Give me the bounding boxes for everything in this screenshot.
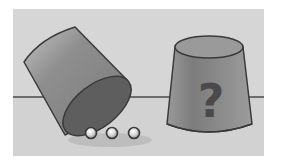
cup-top [175, 36, 243, 58]
cups-illustration: ? [0, 0, 286, 166]
balls [86, 128, 140, 139]
ball [86, 128, 97, 139]
ball [129, 128, 140, 139]
ball [107, 128, 118, 139]
question-mark: ? [198, 74, 225, 128]
upright-cup: ? [167, 36, 252, 132]
